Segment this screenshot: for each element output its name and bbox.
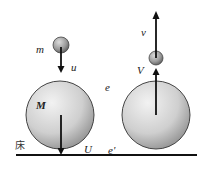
label-large-mass: M	[36, 100, 46, 111]
velocity-v-arrowhead-icon	[153, 11, 160, 19]
label-velocity-U: U	[84, 144, 92, 155]
diagram-canvas	[0, 0, 208, 170]
label-small-mass: m	[36, 44, 44, 55]
label-restitution-e-prime: e'	[108, 145, 115, 156]
velocity-V-arrowhead-icon	[153, 68, 160, 75]
collision-diagram: m u M U 床 e e' v V	[0, 0, 208, 170]
scene-after	[122, 11, 190, 149]
velocity-u-arrowhead-icon	[58, 66, 65, 73]
label-velocity-v: v	[141, 27, 146, 38]
label-velocity-u: u	[71, 62, 77, 73]
large-ball-before	[26, 81, 94, 149]
label-velocity-V: V	[137, 65, 144, 76]
label-floor: 床	[15, 141, 25, 151]
label-restitution-e: e	[105, 82, 110, 93]
